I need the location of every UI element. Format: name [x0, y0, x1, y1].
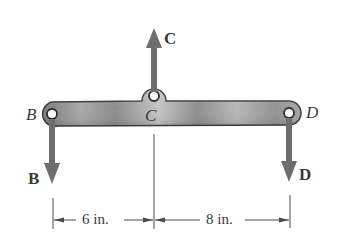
pin-hole-d: [284, 108, 294, 118]
point-label-c: C: [145, 107, 156, 124]
dimension-label-bc: 6 in.: [80, 212, 111, 227]
point-label-d: D: [306, 104, 318, 121]
pin-hole-c: [149, 91, 159, 101]
beam-diagram: B C D C B D 6 in. 8 in.: [0, 0, 348, 243]
force-arrow-c: [146, 28, 162, 92]
point-label-b: B: [26, 106, 36, 123]
dimension-label-cd: 8 in.: [204, 212, 235, 227]
pin-hole-b: [47, 109, 57, 119]
beam: [43, 89, 301, 126]
force-label-b: B: [28, 170, 39, 187]
force-label-d: D: [299, 166, 311, 183]
force-arrow-b: [44, 119, 60, 184]
force-label-c: C: [164, 30, 176, 47]
force-arrow-d: [281, 118, 297, 182]
